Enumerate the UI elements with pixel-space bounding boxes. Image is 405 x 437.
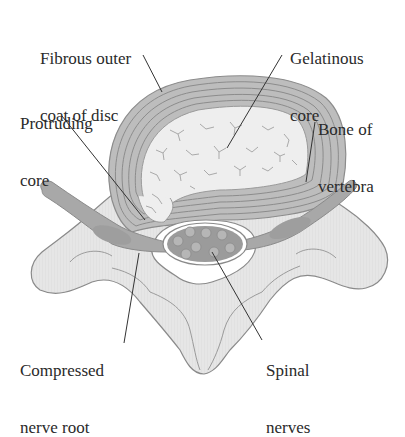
- leader-fibrous-coat: [143, 55, 162, 92]
- spinal-nerve-bundle: [163, 223, 247, 265]
- label-spinal-nerves: Spinal nerves: [266, 323, 310, 437]
- label-protruding-core: Protruding core: [20, 76, 93, 228]
- label-bone-of-vertebra: Bone of vertebra: [318, 82, 374, 234]
- label-compressed-nerve-root: Compressed nerve root: [20, 323, 104, 437]
